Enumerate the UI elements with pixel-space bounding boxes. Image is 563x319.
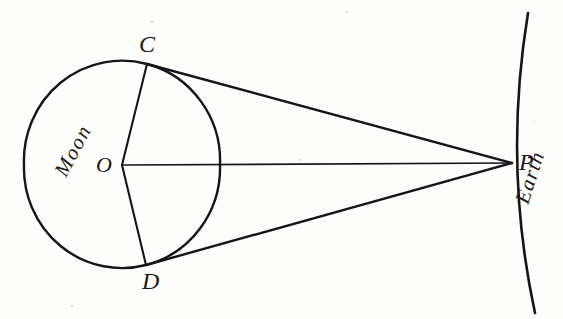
point-label-c: C: [139, 31, 156, 57]
diagram-svg: C O D P Moon Earth: [0, 0, 563, 319]
point-label-o: O: [96, 152, 112, 177]
figure-canvas: C O D P Moon Earth: [0, 0, 563, 319]
axis-line-op: [122, 163, 512, 165]
point-label-d: D: [141, 268, 159, 294]
tangent-line-cp: [147, 64, 512, 163]
moon-label: Moon: [49, 121, 96, 182]
earth-label: Earth: [510, 148, 550, 208]
radius-line-od: [122, 165, 146, 265]
tangent-line-dp: [146, 163, 512, 265]
radius-line-oc: [122, 64, 147, 165]
